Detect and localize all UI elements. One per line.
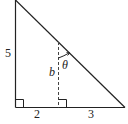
label-bottom-right: 3 xyxy=(88,107,94,121)
hypotenuse xyxy=(16,0,126,108)
label-bottom-left: 2 xyxy=(34,107,40,121)
label-left-side: 5 xyxy=(5,46,11,60)
label-theta: θ xyxy=(62,58,68,72)
right-angle-marker-middle xyxy=(59,100,67,108)
right-angle-marker-left xyxy=(16,100,24,108)
label-b: b xyxy=(49,65,55,79)
triangle-diagram: 5 2 3 b θ xyxy=(0,0,128,124)
